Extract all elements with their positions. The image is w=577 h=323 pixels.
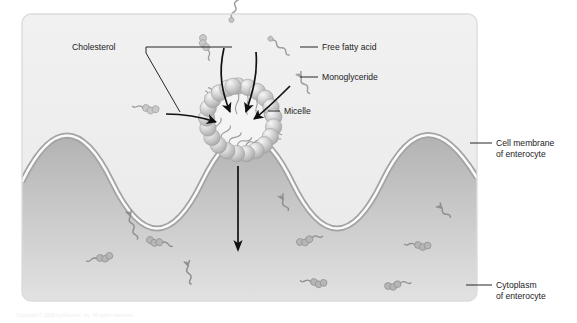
label-cytoplasm-line1: Cytoplasm	[496, 280, 537, 290]
footer-caption: Copyright © 2006 by Elsevier, Inc. All r…	[16, 312, 134, 318]
label-micelle: Micelle	[284, 106, 311, 116]
label-cytoplasm-line2: of enterocyte	[496, 291, 546, 301]
label-cell-membrane-line1: Cell membrane	[496, 138, 554, 148]
label-cholesterol: Cholesterol	[72, 42, 116, 52]
label-cell-membrane-line2: of enterocyte	[496, 149, 546, 159]
micelle-absorption-diagram: Cholesterol Free fatty acid Monoglycerid…	[0, 0, 577, 323]
label-monoglyceride: Monoglyceride	[322, 72, 378, 82]
figure-canvas: Cholesterol Free fatty acid Monoglycerid…	[0, 0, 577, 323]
label-free-fatty-acid: Free fatty acid	[322, 42, 377, 52]
